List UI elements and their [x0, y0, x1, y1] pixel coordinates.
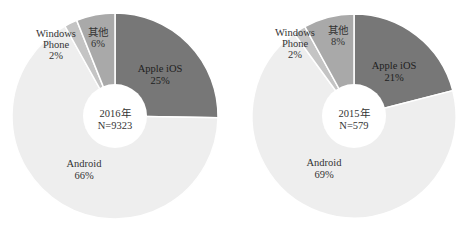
label-android-name: Android	[67, 158, 103, 169]
center-label-year: 2015年	[339, 107, 370, 119]
label-ios-name: Apple iOS	[138, 63, 183, 74]
label-ios-pct: 21%	[384, 72, 404, 83]
label-other-name: 其他	[88, 26, 109, 38]
label-wp-name-1: Windows	[36, 28, 76, 39]
label-ios-pct: 25%	[150, 75, 170, 86]
label-other-pct: 6%	[91, 38, 105, 49]
label-wp-name-1: Windows	[275, 27, 315, 38]
label-android-name: Android	[307, 157, 343, 168]
label-wp-name-2: Phone	[282, 38, 309, 49]
center-label-n: N=9323	[98, 120, 133, 131]
label-ios-name: Apple iOS	[372, 60, 417, 71]
label-other-pct: 8%	[331, 36, 345, 47]
center-label-year: 2016年	[100, 107, 131, 119]
center-label-n: N=579	[339, 120, 368, 131]
label-wp-name-2: Phone	[43, 39, 70, 50]
label-wp-pct: 2%	[49, 50, 63, 61]
label-android-pct: 66%	[74, 170, 94, 181]
label-android-pct: 69%	[314, 169, 334, 180]
label-wp-pct: 2%	[288, 49, 302, 60]
label-other-name: 其他	[328, 24, 349, 36]
donut-charts: Apple iOS 25% Android 66% Windows Phone …	[0, 0, 465, 227]
